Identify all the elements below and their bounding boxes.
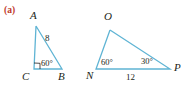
vertex-label-c: C xyxy=(22,71,29,82)
vertex-label-p: P xyxy=(174,62,181,73)
side-length-np: 12 xyxy=(126,73,135,82)
vertex-label-a: A xyxy=(30,10,37,21)
angle-label-n: 60° xyxy=(101,58,113,67)
right-angle-marker-at-c xyxy=(34,63,40,69)
vertex-label-n: N xyxy=(86,70,93,81)
vertex-label-b: B xyxy=(58,71,65,82)
part-label: (a) xyxy=(4,6,15,16)
side-length-ab: 8 xyxy=(45,34,50,43)
geometry-figure: (a) A C B 8 60° O N P 60° 30° 12 xyxy=(0,0,188,87)
angle-label-p: 30° xyxy=(141,57,153,66)
angle-label-b: 60° xyxy=(41,59,53,68)
vertex-label-o: O xyxy=(104,11,112,22)
